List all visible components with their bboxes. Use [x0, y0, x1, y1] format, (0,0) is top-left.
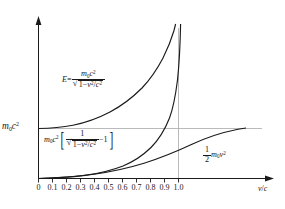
- x-axis-tick-label: 0: [37, 183, 41, 192]
- x-axis-arrow-icon: [265, 176, 274, 182]
- x-axis-tick-labels: 00.10.20.30.40.50.60.70.80.91.0: [0, 183, 285, 195]
- y-axis-label: m0c2: [2, 122, 19, 133]
- total-energy-radicand: 1−v2/c2: [78, 80, 103, 90]
- x-axis-tick-label: 0.2: [62, 183, 72, 192]
- y-axis-label-c-exponent: 2: [16, 121, 19, 127]
- relativistic-energy-chart: m0c2 v/c E= m0c2 1−v2/c2 m0c2[ 1 1−v2/c2…: [0, 0, 285, 209]
- kinetic-energy-den-c-exponent: 2: [93, 140, 96, 146]
- x-axis-tick-label: 0.7: [132, 183, 142, 192]
- x-axis-tick-label: 0.9: [160, 183, 170, 192]
- x-axis-tick-label: 0.5: [104, 183, 114, 192]
- x-axis-tick-label: 0.4: [90, 183, 100, 192]
- total-energy-denominator: 1−v2/c2: [72, 79, 105, 90]
- total-energy-fraction: m0c2 1−v2/c2: [72, 70, 105, 90]
- x-axis-tick-label: 0.8: [146, 183, 156, 192]
- total-energy-curve: [39, 24, 176, 129]
- chart-canvas: [0, 0, 285, 209]
- kinetic-energy-denominator: 1−v2/c2: [66, 139, 99, 150]
- kinetic-energy-c-exponent: 2: [56, 134, 59, 140]
- classical-energy-denominator: 2: [203, 155, 211, 165]
- total-energy-den-c-exponent: 2: [99, 80, 102, 86]
- x-axis-tick-label: 0.3: [76, 183, 86, 192]
- total-energy-num-c-exponent: 2: [93, 69, 96, 75]
- kinetic-energy-bracket-open: [: [60, 131, 64, 148]
- kinetic-energy-minus-one: −1: [99, 135, 108, 144]
- x-axis-ticks: [39, 179, 179, 183]
- relativistic-kinetic-energy-curve: [39, 24, 181, 179]
- kinetic-energy-radical: 1−v2/c2: [68, 140, 97, 150]
- total-energy-numerator: m0c2: [72, 70, 105, 79]
- kinetic-energy-radicand: 1−v2/c2: [72, 140, 97, 150]
- total-energy-annotation: E= m0c2 1−v2/c2: [62, 70, 105, 90]
- y-axis-arrow-icon: [36, 16, 42, 25]
- x-axis-tick-label: 1.0: [174, 183, 184, 192]
- x-axis-tick-label: 0.1: [48, 183, 58, 192]
- kinetic-energy-bracket-close: ]: [109, 131, 113, 148]
- kinetic-energy-fraction: 1 1−v2/c2: [66, 130, 99, 150]
- classical-energy-annotation: 1 2 m0v2: [203, 146, 226, 164]
- classical-energy-numerator: 1: [203, 146, 211, 155]
- classical-energy-v-exponent: 2: [223, 150, 226, 156]
- x-axis-tick-label: 0.6: [118, 183, 128, 192]
- classical-energy-half-fraction: 1 2: [203, 146, 211, 164]
- kinetic-energy-annotation: m0c2[ 1 1−v2/c2 −1]: [44, 130, 115, 150]
- total-energy-radical: 1−v2/c2: [74, 80, 103, 90]
- y-axis-label-m: m: [2, 121, 9, 131]
